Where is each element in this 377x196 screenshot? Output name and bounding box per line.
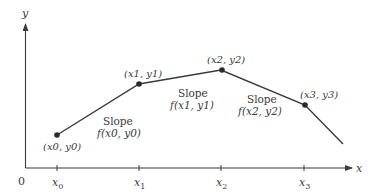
tick-label-x2: x2	[216, 176, 227, 191]
point-label-2: (x2, y2)	[207, 54, 245, 65]
origin-label: 0	[18, 175, 25, 188]
point-2	[219, 67, 225, 73]
y-axis-label: y	[21, 7, 29, 20]
point-3	[302, 102, 308, 108]
point-label-1: (x1, y1)	[124, 68, 162, 79]
point-1	[136, 81, 142, 87]
x-axis-label: x	[356, 162, 363, 175]
slope-title-0: Slope	[103, 115, 133, 127]
point-0	[54, 132, 60, 138]
slope-expr-2: f(x2, y2)	[237, 105, 282, 117]
slope-title-1: Slope	[178, 87, 208, 99]
slope-expr-1: f(x1, y1)	[169, 99, 214, 111]
slope-title-2: Slope	[247, 93, 277, 105]
tick-label-x0: x0	[52, 176, 63, 191]
point-label-0: (x0, y0)	[43, 141, 81, 152]
tick-label-x3: x3	[299, 176, 310, 191]
point-label-3: (x3, y3)	[300, 89, 338, 100]
euler-method-diagram: y x 0 x0 x1 x2 x3 (x0, y0) (x1, y1) (x2,…	[0, 0, 377, 196]
tick-label-x1: x1	[134, 176, 145, 191]
slope-expr-0: f(x0, y0)	[96, 127, 141, 139]
